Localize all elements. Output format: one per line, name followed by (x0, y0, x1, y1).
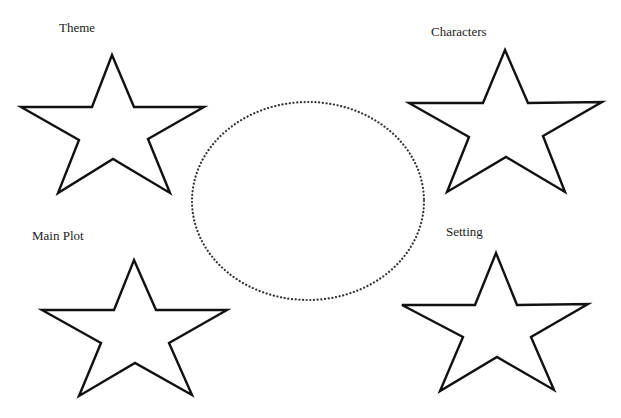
characters-label: Characters (431, 25, 487, 38)
center-dotted-oval (192, 102, 424, 300)
main-plot-star (42, 260, 227, 396)
main-plot-label: Main Plot (32, 229, 84, 242)
setting-star (402, 253, 588, 391)
theme-star (21, 55, 204, 193)
setting-label: Setting (446, 225, 483, 238)
theme-label: Theme (59, 21, 95, 34)
characters-star (409, 50, 602, 192)
organizer-canvas (0, 0, 621, 418)
